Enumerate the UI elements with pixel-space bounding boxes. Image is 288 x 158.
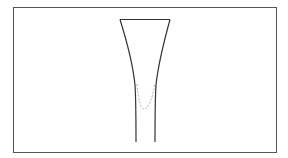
meniscus-curve [137,84,155,109]
tube-right-wall [155,20,170,143]
tube-left-wall [120,20,136,143]
frame-border [14,8,277,153]
diagram-canvas [0,0,288,158]
tube-diagram [0,0,288,158]
